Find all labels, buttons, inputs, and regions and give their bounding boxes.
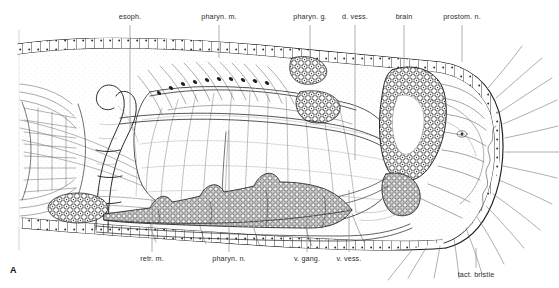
anatomy-drawing — [0, 0, 559, 288]
label-v-vess: v. vess. — [336, 255, 361, 262]
label-v-gang: v. gang. — [294, 255, 320, 262]
anatomical-plate: esoph. pharyn. m. pharyn. g. d. vess. br… — [0, 0, 559, 288]
label-prostom-n: prostom. n. — [443, 13, 481, 20]
panel-letter: A — [10, 266, 17, 275]
label-pharyn-g: pharyn. g. — [293, 13, 326, 20]
label-brain: brain — [396, 13, 413, 20]
label-pharyn-m: pharyn. m. — [201, 13, 236, 20]
label-tact-bristle: tact. bristle — [458, 271, 495, 278]
label-pharyn-n: pharyn. n. — [212, 255, 245, 262]
label-retr-m: retr. m. — [140, 255, 164, 262]
label-esoph: esoph. — [119, 13, 141, 20]
label-d-vess: d. vess. — [342, 13, 368, 20]
